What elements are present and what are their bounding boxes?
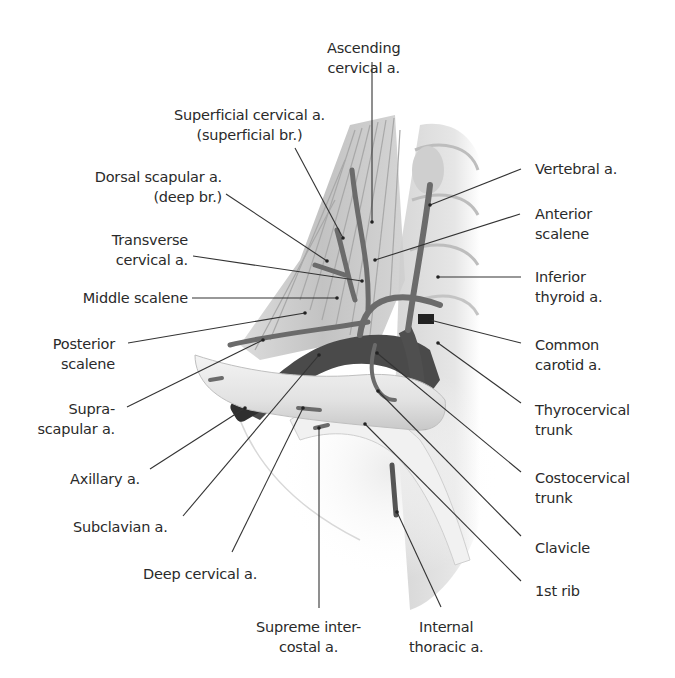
label-posterior-scalene: Posterior scalene bbox=[53, 334, 115, 374]
label-axillary: Axillary a. bbox=[70, 469, 140, 489]
scalene-muscles bbox=[240, 115, 405, 360]
label-supreme-intercostal: Supreme inter- costal a. bbox=[256, 617, 361, 657]
label-deep-cervical: Deep cervical a. bbox=[143, 564, 257, 584]
label-inferior-thyroid: Inferior thyroid a. bbox=[535, 267, 602, 307]
label-common-carotid: Common carotid a. bbox=[535, 335, 601, 375]
label-middle-scalene: Middle scalene bbox=[83, 288, 188, 308]
label-transverse-cervical: Transverse cervical a. bbox=[112, 230, 188, 270]
label-ascending-cervical: Ascending cervical a. bbox=[327, 38, 400, 78]
label-first-rib: 1st rib bbox=[535, 581, 580, 601]
label-superficial-cervical: Superficial cervical a. (superficial br.… bbox=[174, 105, 325, 145]
label-clavicle: Clavicle bbox=[535, 538, 590, 558]
label-costocervical-trunk: Costocervical trunk bbox=[535, 468, 630, 508]
label-internal-thoracic: Internal thoracic a. bbox=[409, 617, 483, 657]
label-vertebral: Vertebral a. bbox=[535, 159, 617, 179]
label-anterior-scalene: Anterior scalene bbox=[535, 204, 592, 244]
label-dorsal-scapular: Dorsal scapular a. (deep br.) bbox=[95, 167, 222, 207]
label-suprascapular: Supra- scapular a. bbox=[37, 399, 115, 439]
label-subclavian: Subclavian a. bbox=[73, 517, 168, 537]
label-thyrocervical-trunk: Thyrocervical trunk bbox=[535, 400, 630, 440]
